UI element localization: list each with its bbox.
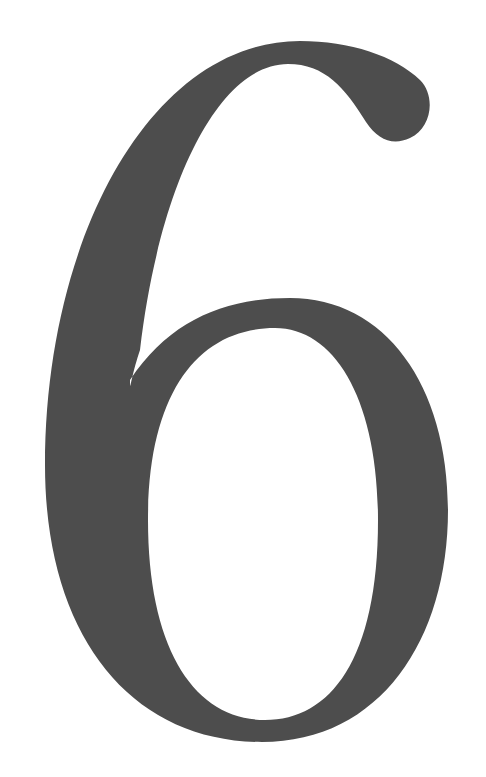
numeral-six-glyph-icon [0,0,486,777]
numeral-six: 6 [0,0,486,777]
